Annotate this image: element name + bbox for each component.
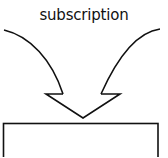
arrow-head-icon [46,94,120,118]
right-curved-arrow-shaft [101,29,160,94]
merge-arrow-diagram [0,0,168,157]
target-box [4,124,159,158]
left-curved-arrow-shaft [4,30,63,94]
